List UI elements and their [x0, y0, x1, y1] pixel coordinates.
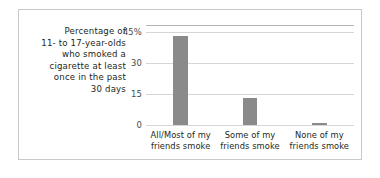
bar: [173, 36, 188, 125]
x-axis-label-line: None of my: [285, 130, 354, 141]
x-axis-label-2: None of my friends smoke: [285, 130, 354, 156]
caption-line: Percentage of: [22, 26, 126, 38]
caption-line: once in the past: [22, 72, 126, 84]
chart-figure-frame: Percentage of 11- to 17-year-olds who sm…: [18, 9, 362, 160]
bar: [243, 98, 258, 125]
bar: [312, 123, 327, 125]
y-axis-tick-label: 0: [137, 120, 143, 130]
x-axis-label-line: Some of my: [215, 130, 284, 141]
caption-line: cigarette at least: [22, 61, 126, 73]
y-axis-tick-label: 15: [131, 89, 142, 99]
gridline: [146, 125, 354, 126]
gridline: [146, 32, 354, 33]
plot-inner: 0153045%: [146, 26, 354, 125]
y-axis-tick-label: 45%: [123, 27, 142, 37]
x-axis-label-line: All/Most of my: [146, 130, 215, 141]
y-axis-tick-label: 30: [131, 58, 142, 68]
x-axis-labels: All/Most of my friends smoke Some of my …: [146, 130, 354, 156]
x-axis-label-line: friends smoke: [146, 141, 215, 152]
x-axis-label-line: friends smoke: [285, 141, 354, 152]
x-axis-label-line: friends smoke: [215, 141, 284, 152]
caption-line: 11- to 17-year-olds: [22, 38, 126, 50]
caption-line: 30 days: [22, 84, 126, 96]
caption-line: who smoked a: [22, 49, 126, 61]
x-axis-label-0: All/Most of my friends smoke: [146, 130, 215, 156]
chart-caption: Percentage of 11- to 17-year-olds who sm…: [22, 26, 126, 96]
plot-area: 0153045%: [146, 25, 354, 126]
x-axis-label-1: Some of my friends smoke: [215, 130, 284, 156]
